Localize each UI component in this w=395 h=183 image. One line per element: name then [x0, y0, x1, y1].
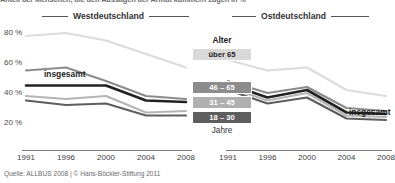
series-label-insgesamt-east: insgesamt	[349, 107, 390, 117]
legend-footer: Jahre	[191, 126, 253, 135]
line-chart-west	[14, 18, 194, 144]
figure-title-cropped: Anteil der Menschen, die den Aussagen de…	[0, 0, 394, 9]
x-tick-2004-east: 2004	[338, 153, 356, 162]
x-tick-2000-west: 2000	[97, 153, 115, 162]
series-line-insgesamt	[26, 86, 186, 103]
x-axis-east	[226, 150, 392, 151]
legend-title: Alter	[191, 35, 253, 45]
series-label-insgesamt-west: insgesamt	[44, 69, 85, 79]
legend-item-ueber-65: über 65	[192, 48, 252, 61]
series-line-über65	[26, 33, 186, 68]
legend-item-18-30: 18 – 30	[192, 111, 252, 124]
x-tick-1996-east: 1996	[259, 153, 277, 162]
x-tick-2004-west: 2004	[137, 153, 155, 162]
x-tick-2008-west: 2008	[177, 153, 195, 162]
x-tick-2008-east: 2008	[377, 153, 395, 162]
x-tick-1996-west: 1996	[57, 153, 75, 162]
legend: Alter über 65 46 – 65 31 – 45 18 – 30 Ja…	[191, 35, 253, 135]
x-tick-1991-east: 1991	[219, 153, 237, 162]
legend-item-31-45: 31 – 45	[192, 96, 252, 109]
x-axis-west	[22, 150, 192, 151]
x-tick-2000-east: 2000	[298, 153, 316, 162]
x-tick-1991-west: 1991	[17, 153, 35, 162]
source-note: Quelle: ALLBUS 2008 | © Hans-Böckler-Sti…	[4, 170, 160, 177]
legend-item-46-65: 46 – 65	[192, 81, 252, 94]
series-line-1830	[26, 101, 186, 116]
legend-spacer	[191, 63, 253, 81]
